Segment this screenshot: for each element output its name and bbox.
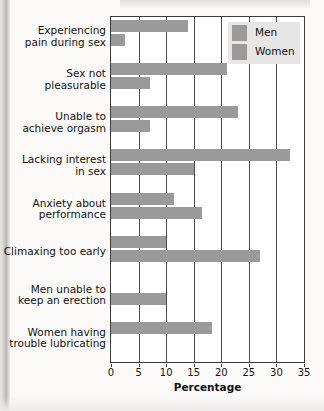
bar-women (111, 20, 188, 32)
value-axis: 05101520253035 (110, 364, 305, 380)
bar-women (111, 106, 238, 118)
category-label: Unable toachieve orgasm (0, 111, 106, 134)
axis-tick-label: 5 (135, 367, 141, 378)
category-label: Anxiety aboutperformance (0, 198, 106, 221)
bar-group (111, 190, 304, 233)
bar-men (111, 77, 150, 89)
bar-women (111, 149, 290, 161)
category-label: Lacking interestin sex (0, 154, 106, 177)
bar-women (111, 236, 166, 248)
legend-swatch-women (232, 44, 247, 60)
category-label-line: in sex (0, 166, 106, 178)
axis-tick-label: 20 (215, 367, 228, 378)
axis-tick-label: 15 (187, 367, 200, 378)
category-label-line: Experiencing (0, 25, 106, 37)
category-axis-labels: Experiencingpain during sexSex notpleasu… (0, 16, 106, 363)
axis-tick-label: 0 (108, 367, 114, 378)
bar-men (111, 120, 150, 132)
axis-tick-label: 25 (242, 367, 255, 378)
bar-men (111, 293, 166, 305)
category-label-line: Sex not (0, 68, 106, 80)
category-label: Sex notpleasurable (0, 68, 106, 91)
bar-group (111, 276, 304, 319)
bar-chart: Experiencingpain during sexSex notpleasu… (0, 0, 324, 411)
axis-tick-label: 35 (298, 367, 311, 378)
category-label-line: performance (0, 209, 106, 221)
category-label: Climaxing too early (0, 246, 106, 258)
bar-men (111, 207, 202, 219)
bar-group (111, 233, 304, 276)
bar-group (111, 103, 304, 146)
axis-tick-label: 10 (160, 367, 173, 378)
bar-women (111, 193, 174, 205)
category-label: Experiencingpain during sex (0, 25, 106, 48)
bar-men (111, 163, 194, 175)
bar-women (111, 322, 212, 334)
legend-label-men: Men (255, 26, 277, 38)
legend-separator (232, 42, 247, 43)
plot-area (110, 16, 305, 363)
x-axis-title: Percentage (110, 381, 305, 393)
bar-group (111, 60, 304, 103)
category-label-line: trouble lubricating (0, 338, 106, 350)
category-label-line: achieve orgasm (0, 123, 106, 135)
chart-legend: Men Women (228, 22, 300, 64)
bar-women (111, 63, 227, 75)
category-label: Men unable tokeep an erection (0, 284, 106, 307)
legend-swatch-men (232, 25, 247, 41)
bar-men (111, 250, 260, 262)
bar-group (111, 319, 304, 362)
bar-men (111, 34, 125, 46)
category-label: Women havingtrouble lubricating (0, 327, 106, 350)
category-label-line: Climaxing too early (0, 246, 106, 258)
legend-label-women: Women (255, 45, 295, 57)
axis-tick-label: 30 (270, 367, 283, 378)
category-label-line: pleasurable (0, 80, 106, 92)
category-label-line: pain during sex (0, 37, 106, 49)
bar-group (111, 146, 304, 189)
category-label-line: keep an erection (0, 295, 106, 307)
page-bottom-artifact (0, 397, 324, 411)
